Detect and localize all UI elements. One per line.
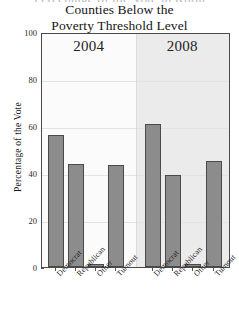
bar-2008-democrat[interactable]: [145, 124, 161, 267]
x-axis-labels: Democrat Republican Other Turnout Democr…: [41, 268, 230, 315]
bar-2008-turnout[interactable]: [206, 161, 222, 267]
plot-area: 2004 2008: [41, 33, 230, 268]
y-tick-label-100: 100: [15, 28, 37, 38]
chart-figure: Percentage of the Vote in Rural Counties…: [0, 0, 239, 315]
y-tick-label-0: 0: [15, 263, 37, 273]
y-tick-label-60: 60: [15, 122, 37, 132]
y-tick-label-80: 80: [15, 75, 37, 85]
bar-group-2008: [42, 34, 229, 267]
y-tick-label-20: 20: [15, 216, 37, 226]
y-tick-label-40: 40: [15, 169, 37, 179]
y-axis-ticks: 100 80 60 40 20 0: [13, 0, 37, 315]
